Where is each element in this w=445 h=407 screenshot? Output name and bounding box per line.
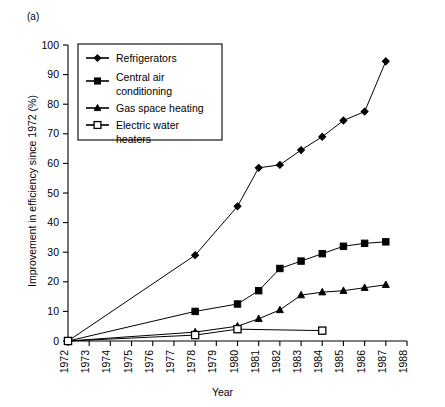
data-point-marker	[255, 164, 262, 171]
chart-legend: RefrigeratorsCentral airconditioningGas …	[78, 44, 222, 145]
y-tick-label: 80	[47, 98, 59, 110]
legend-label-line1: Refrigerators	[116, 52, 177, 64]
x-tick-label: 1987	[376, 350, 388, 374]
x-tick-label: 1977	[164, 350, 176, 374]
data-point-marker	[361, 240, 367, 246]
figure-panel-a: (a) Improvement in efficiency since 1972…	[0, 0, 445, 407]
y-tick-label: 90	[47, 68, 59, 80]
data-point-marker	[298, 258, 304, 264]
data-point-marker	[319, 250, 325, 256]
y-tick-label: 30	[47, 246, 59, 258]
data-point-marker	[361, 108, 368, 115]
x-tick-label: 1978	[185, 350, 197, 374]
data-point-marker	[298, 147, 305, 154]
x-tick-label: 1979	[206, 350, 218, 374]
data-point-marker	[276, 306, 283, 313]
y-tick-label: 70	[47, 127, 59, 139]
data-point-marker	[64, 337, 71, 344]
y-tick-label: 10	[47, 305, 59, 317]
data-point-marker	[340, 243, 346, 249]
legend-label-line1: Central air	[116, 71, 165, 83]
x-tick-label: 1985	[333, 350, 345, 374]
y-tick-label: 50	[47, 187, 59, 199]
data-point-marker	[382, 281, 389, 288]
legend-label-line1: Gas space heating	[116, 102, 204, 114]
x-tick-label: 1972	[58, 350, 70, 374]
series-2	[65, 281, 390, 344]
x-tick-label: 1973	[79, 350, 91, 374]
data-point-marker	[94, 78, 100, 84]
x-tick-label: 1975	[122, 350, 134, 374]
x-tick-label: 1988	[397, 350, 409, 374]
y-tick-label: 20	[47, 275, 59, 287]
data-point-marker	[234, 301, 240, 307]
x-tick-label: 1983	[291, 350, 303, 374]
x-tick-label: 1982	[270, 350, 282, 374]
data-point-marker	[383, 239, 389, 245]
chart-plot-area: 0102030405060708090100 19721973197419751…	[0, 0, 445, 407]
legend-label-line1: Electric water	[116, 119, 180, 131]
data-point-marker	[192, 308, 198, 314]
x-tick-label: 1986	[355, 350, 367, 374]
y-tick-label: 100	[41, 39, 59, 51]
x-tick-label: 1974	[100, 350, 112, 374]
data-point-marker	[94, 122, 101, 129]
x-tick-label: 1980	[228, 350, 240, 374]
data-point-marker	[277, 265, 283, 271]
data-point-marker	[192, 331, 199, 338]
series-line	[68, 285, 386, 341]
y-axis: 0102030405060708090100	[41, 39, 68, 347]
data-point-marker	[234, 326, 241, 333]
y-tick-label: 0	[53, 335, 59, 347]
data-point-marker	[319, 327, 326, 334]
y-tick-label: 40	[47, 216, 59, 228]
data-point-marker	[276, 161, 283, 168]
data-point-marker	[382, 58, 389, 65]
x-tick-label: 1976	[143, 350, 155, 374]
x-tick-label: 1981	[249, 350, 261, 374]
legend-label-line2: heaters	[116, 133, 151, 145]
y-tick-label: 60	[47, 157, 59, 169]
series-1	[65, 239, 389, 345]
legend-label-line2: conditioning	[116, 85, 172, 97]
x-axis: 1972197319741975197619771978197919801981…	[58, 341, 409, 373]
x-tick-label: 1984	[312, 350, 324, 374]
data-point-marker	[255, 287, 261, 293]
